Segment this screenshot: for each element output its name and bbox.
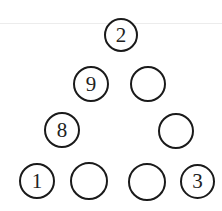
circle-node-bottom-2[interactable] (70, 162, 108, 200)
circle-node-top: 2 (104, 18, 138, 52)
circle-node-bottom-1: 1 (19, 163, 55, 199)
circle-node-row3-right[interactable] (158, 113, 194, 149)
circle-node-row3-left: 8 (44, 112, 80, 148)
circle-node-row2-left: 9 (73, 66, 109, 102)
circle-node-row2-right[interactable] (130, 66, 166, 102)
circle-node-bottom-4: 3 (180, 164, 215, 199)
circle-node-bottom-3[interactable] (128, 163, 166, 201)
